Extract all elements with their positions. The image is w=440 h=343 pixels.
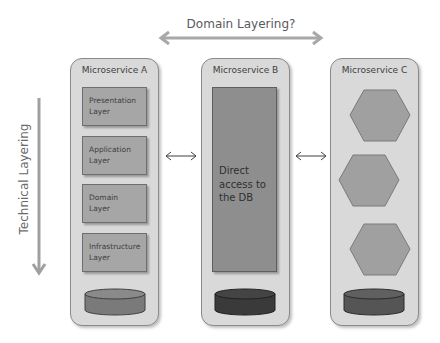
microservice-c-title: Microservice C <box>331 65 418 75</box>
domain-layering-label: Domain Layering? <box>160 17 322 31</box>
database-a-icon <box>84 288 146 318</box>
domain-layer-label: Domain Layer <box>89 193 140 213</box>
direct-db-access-box: Direct access to the DB <box>212 87 277 272</box>
database-b-icon <box>214 288 276 318</box>
application-layer-label: Application Layer <box>89 145 140 165</box>
presentation-layer-label: Presentation Layer <box>89 96 140 116</box>
connector-a-b-arrow-icon <box>164 150 198 162</box>
technical-layering-arrow-icon <box>32 98 46 278</box>
connector-b-c-arrow-icon <box>294 150 328 162</box>
hexagon-1-icon <box>349 89 411 142</box>
hexagon-3-icon <box>349 223 411 276</box>
database-c-icon <box>343 288 405 318</box>
microservice-a-title: Microservice A <box>71 65 158 75</box>
infrastructure-layer-box: Infrastructure Layer <box>82 233 147 272</box>
technical-layering-label: Technical Layering <box>17 119 31 239</box>
infrastructure-layer-label: Infrastructure Layer <box>89 242 140 262</box>
direct-db-access-label: Direct access to the DB <box>219 165 266 203</box>
domain-layering-arrow-icon <box>158 31 324 45</box>
application-layer-box: Application Layer <box>82 136 147 175</box>
domain-layer-box: Domain Layer <box>82 184 147 223</box>
hexagon-2-icon <box>338 154 400 207</box>
presentation-layer-box: Presentation Layer <box>82 87 147 126</box>
microservice-b-title: Microservice B <box>202 65 289 75</box>
